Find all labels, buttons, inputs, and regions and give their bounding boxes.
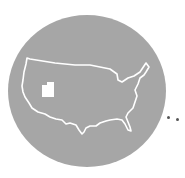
trailing-dot-1 [167, 116, 170, 119]
us-map-outline-icon [0, 0, 185, 178]
us-outline [22, 58, 149, 134]
trailing-dot-2 [176, 118, 179, 121]
